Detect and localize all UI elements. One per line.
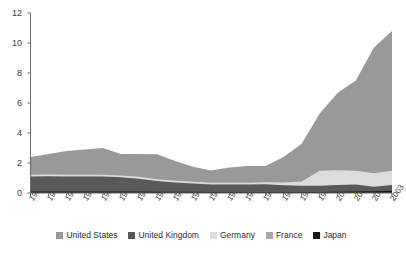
legend-label-france: France <box>276 231 302 240</box>
legend-swatch-united-states-icon <box>56 232 63 239</box>
legend-item-united-kingdom[interactable]: United Kingdom <box>128 231 198 240</box>
chart-legend: United StatesUnited KingdomGermanyFrance… <box>0 231 403 240</box>
area-series-group <box>31 31 393 193</box>
area-series-united-states <box>31 31 393 193</box>
legend-label-germany: Germany <box>220 231 255 240</box>
legend-swatch-germany-icon <box>210 232 217 239</box>
legend-label-united-states: United States <box>66 231 117 240</box>
legend-swatch-france-icon <box>266 232 273 239</box>
legend-label-japan: Japan <box>323 231 346 240</box>
legend-label-united-kingdom: United Kingdom <box>138 231 198 240</box>
legend-swatch-united-kingdom-icon <box>128 232 135 239</box>
legend-item-germany[interactable]: Germany <box>210 231 255 240</box>
legend-item-france[interactable]: France <box>266 231 302 240</box>
legend-item-united-states[interactable]: United States <box>56 231 117 240</box>
legend-item-japan[interactable]: Japan <box>313 231 346 240</box>
legend-swatch-japan-icon <box>313 232 320 239</box>
